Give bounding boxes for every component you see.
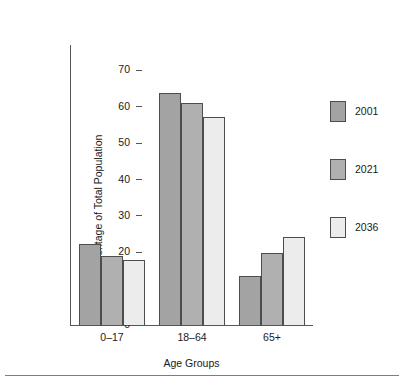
x-group-label: 65+ bbox=[212, 331, 332, 343]
bar-group bbox=[79, 45, 145, 325]
bar-2001-0–17[interactable] bbox=[79, 244, 101, 325]
chart-legend: 200120212036 bbox=[330, 100, 402, 274]
bar-2001-65+[interactable] bbox=[239, 276, 261, 325]
legend-item-2021[interactable]: 2021 bbox=[330, 158, 402, 180]
bar-2021-18–64[interactable] bbox=[181, 103, 203, 325]
legend-label: 2001 bbox=[355, 105, 378, 117]
bottom-divider bbox=[5, 375, 399, 376]
bar-2021-0–17[interactable] bbox=[101, 256, 123, 325]
bar-2021-65+[interactable] bbox=[261, 253, 283, 325]
legend-item-2001[interactable]: 2001 bbox=[330, 100, 402, 122]
bar-2001-18–64[interactable] bbox=[159, 93, 181, 325]
bar-group bbox=[239, 45, 305, 325]
legend-label: 2021 bbox=[355, 163, 378, 175]
bar-groups: 0–1718–6465+ bbox=[71, 45, 313, 325]
legend-swatch-icon bbox=[330, 159, 346, 180]
legend-item-2036[interactable]: 2036 bbox=[330, 216, 402, 238]
bar-group bbox=[159, 45, 225, 325]
bar-2036-0–17[interactable] bbox=[123, 260, 145, 325]
legend-swatch-icon bbox=[330, 101, 346, 122]
cut-off-text-remnant bbox=[0, 0, 404, 5]
bar-2036-18–64[interactable] bbox=[203, 117, 225, 325]
bar-2036-65+[interactable] bbox=[283, 237, 305, 325]
legend-label: 2036 bbox=[355, 221, 378, 233]
x-axis-title: Age Groups bbox=[70, 357, 313, 369]
chart-page: 010203040506070 Percentage of Total Popu… bbox=[0, 0, 404, 385]
legend-swatch-icon bbox=[330, 217, 346, 238]
